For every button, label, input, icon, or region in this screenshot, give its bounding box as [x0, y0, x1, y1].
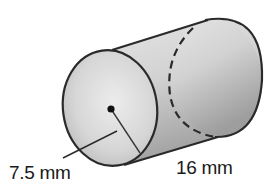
center-point — [107, 105, 114, 112]
radius-label: 7.5 mm — [9, 163, 71, 182]
height-label: 16 mm — [176, 158, 233, 177]
cylinder-diagram: 7.5 mm 16 mm — [0, 0, 269, 192]
